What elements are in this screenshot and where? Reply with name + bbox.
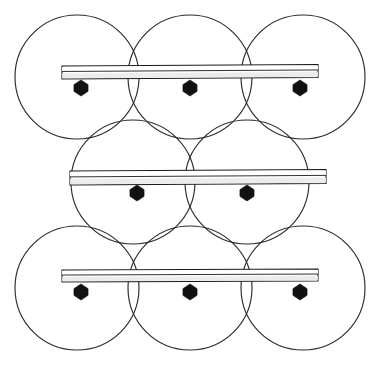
figure-canvas: Hexagonal close-packed circle array with… — [0, 0, 379, 365]
bolt-group-bottom — [74, 284, 307, 300]
bolt-hex-icon — [183, 284, 197, 300]
bolt-hex-icon — [240, 185, 254, 201]
bolt-hex-icon — [183, 80, 197, 96]
bolt-hex-icon — [130, 185, 144, 201]
rail-assembly-bottom — [62, 269, 318, 300]
bolt-hex-icon — [293, 284, 307, 300]
bolt-hex-icon — [74, 80, 88, 96]
rail-assembly-middle — [70, 170, 326, 202]
bolt-hex-icon — [293, 80, 307, 96]
technical-line-drawing: Hexagonal close-packed circle array with… — [0, 0, 379, 365]
bolt-group-middle — [130, 185, 254, 201]
rail-assembly-top — [62, 65, 318, 97]
bolt-hex-icon — [74, 284, 88, 300]
bolt-group-top — [74, 80, 307, 96]
